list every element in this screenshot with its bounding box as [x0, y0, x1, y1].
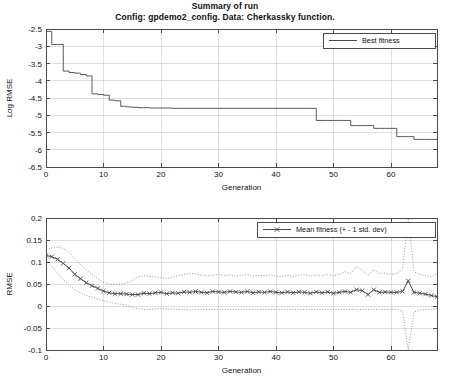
x-tick-label: 0 — [44, 170, 49, 179]
x-tick-label: 60 — [387, 170, 396, 179]
legend-label: Mean fitness (+ - 1 std. dev) — [296, 225, 387, 234]
legend: Best fitness — [323, 33, 435, 48]
y-tick-label: 0.2 — [31, 214, 43, 223]
y-tick-label: 0.1 — [31, 258, 43, 267]
mean-fitness-chart: 01020304050600.20.150.10.050-0.05-0.1Gen… — [0, 205, 450, 392]
x-tick-label: 60 — [387, 353, 396, 362]
y-tick-label: -5.5 — [28, 129, 42, 138]
best-fitness-chart: 0102030405060-2.5-3-3.5-4-4.5-5-5.5-6-6.… — [0, 22, 450, 192]
y-tick-label: 0.15 — [26, 236, 42, 245]
y-tick-label: -4.5 — [28, 94, 42, 103]
x-tick-label: 30 — [214, 170, 223, 179]
y-tick-label: -3.5 — [28, 60, 42, 69]
y-tick-label: 0.05 — [26, 280, 42, 289]
y-tick-label: -6 — [35, 146, 43, 155]
series-markers-0 — [44, 253, 439, 299]
x-tick-label: 50 — [329, 170, 338, 179]
x-tick-label: 50 — [329, 353, 338, 362]
best-fitness-svg: 0102030405060-2.5-3-3.5-4-4.5-5-5.5-6-6.… — [0, 22, 450, 192]
mean-fitness-svg: 01020304050600.20.150.10.050-0.05-0.1Gen… — [0, 205, 450, 392]
page-title: Summary of run Config: gpdemo2_config. D… — [0, 1, 450, 23]
x-tick-label: 0 — [44, 353, 49, 362]
title-line-1: Summary of run — [0, 1, 450, 12]
x-tick-label: 10 — [99, 170, 108, 179]
x-tick-label: 40 — [272, 353, 281, 362]
y-tick-label: -2.5 — [28, 25, 42, 34]
series-line-2 — [46, 261, 437, 350]
y-tick-label: -3 — [35, 42, 43, 51]
legend: Mean fitness (+ - 1 std. dev) — [257, 222, 435, 237]
x-tick-label: 10 — [99, 353, 108, 362]
x-tick-label: 20 — [157, 353, 166, 362]
y-tick-label: -0.1 — [28, 346, 42, 355]
series-line-0 — [46, 255, 437, 296]
chart-page: Summary of run Config: gpdemo2_config. D… — [0, 0, 450, 392]
y-tick-label: -0.05 — [24, 324, 43, 333]
legend-label: Best fitness — [362, 36, 400, 45]
y-tick-label: -5 — [35, 111, 43, 120]
y-tick-label: -4 — [35, 77, 43, 86]
x-axis-label: Generation — [222, 183, 262, 192]
x-tick-label: 30 — [214, 353, 223, 362]
x-axis-label: Generation — [222, 366, 262, 375]
y-tick-label: -6.5 — [28, 163, 42, 172]
y-axis-label: RMSE — [5, 272, 14, 295]
x-tick-label: 20 — [157, 170, 166, 179]
y-tick-label: 0 — [38, 302, 43, 311]
y-axis-label: Log RMSE — [5, 79, 14, 118]
x-tick-label: 40 — [272, 170, 281, 179]
